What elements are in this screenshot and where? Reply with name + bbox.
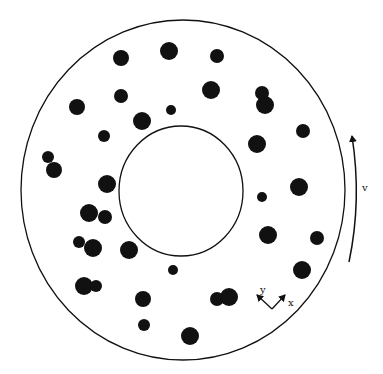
particle bbox=[84, 239, 102, 257]
particle bbox=[248, 135, 266, 153]
particle bbox=[135, 291, 151, 307]
particle bbox=[296, 124, 310, 138]
particle bbox=[293, 261, 311, 279]
particle bbox=[202, 81, 220, 99]
particle bbox=[98, 210, 112, 224]
axis-y-label: y bbox=[259, 284, 266, 295]
particle bbox=[42, 151, 54, 163]
particle bbox=[166, 105, 176, 115]
particle bbox=[69, 99, 85, 115]
particle bbox=[181, 327, 199, 345]
inner-ring bbox=[119, 126, 243, 256]
particle bbox=[168, 265, 178, 275]
particle bbox=[90, 280, 102, 292]
annulus-diagram: v y x bbox=[0, 0, 383, 374]
particle bbox=[120, 241, 138, 259]
coordinate-axes-icon bbox=[257, 295, 285, 309]
particle bbox=[80, 204, 98, 222]
particle bbox=[98, 130, 110, 142]
particle bbox=[257, 192, 267, 202]
particle bbox=[220, 288, 238, 306]
particle bbox=[290, 178, 308, 196]
particle bbox=[138, 319, 150, 331]
particle bbox=[114, 89, 128, 103]
velocity-label: v bbox=[361, 182, 368, 193]
particle bbox=[46, 162, 62, 178]
particle bbox=[259, 226, 277, 244]
particle bbox=[210, 49, 224, 63]
particle bbox=[160, 42, 178, 60]
axis-x-label: x bbox=[288, 297, 294, 308]
particle bbox=[73, 236, 85, 248]
particle bbox=[256, 96, 274, 114]
particle bbox=[98, 175, 116, 193]
particles-group bbox=[42, 42, 324, 345]
particle bbox=[133, 112, 151, 130]
velocity-arrow-icon bbox=[349, 136, 356, 262]
particle bbox=[113, 50, 129, 66]
particle bbox=[310, 231, 324, 245]
